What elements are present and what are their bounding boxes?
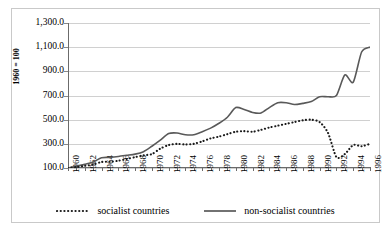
x-axis-tick-mark	[370, 167, 371, 171]
line-non-socialist-countries	[68, 47, 370, 168]
legend-label: non-socialist countries	[244, 205, 334, 216]
line-socialist-countries	[68, 120, 370, 168]
y-axis-tick-label: 500.0	[6, 115, 64, 125]
y-axis-tick-label: 900.0	[6, 66, 64, 76]
y-axis-tick-label: 300.0	[6, 139, 64, 149]
y-axis-tick-label: 100.0	[6, 163, 64, 173]
y-axis-tick-label: 1,100.0	[6, 42, 64, 52]
legend-swatch-dotted-icon	[56, 207, 90, 215]
series-plot-area	[68, 23, 370, 168]
y-axis-tick-label: 700.0	[6, 91, 64, 101]
chart-legend: socialist countriesnon-socialist countri…	[11, 205, 380, 216]
y-axis-tick-labels: 1,300.01,100.0900.0700.0500.0300.0100.0	[0, 23, 64, 167]
legend-entry: socialist countries	[56, 205, 169, 216]
legend-label: socialist countries	[97, 205, 169, 216]
chart-figure: 1960 = 100 1,300.01,100.0900.0700.0500.0…	[0, 0, 391, 235]
y-axis-tick-label: 1,300.0	[6, 18, 64, 28]
legend-swatch-solid-icon	[203, 207, 237, 215]
legend-entry: non-socialist countries	[203, 205, 334, 216]
x-axis-tick-label: 1996	[374, 155, 383, 173]
